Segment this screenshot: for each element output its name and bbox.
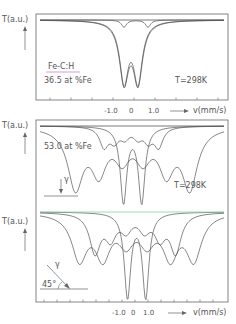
mossbauer-figure: T(a.u.) T(a.u.) T(a.u.) Fe-C:H 36.5 at %… bbox=[0, 0, 236, 324]
sample-label: Fe-C:H bbox=[48, 62, 74, 71]
top-ylabel: T(a.u.) bbox=[1, 15, 28, 24]
top-x-arrowhead bbox=[184, 109, 189, 113]
bottom-series-1 bbox=[40, 213, 224, 256]
angle-arc bbox=[58, 282, 62, 289]
top-xlabel: v(mm/s) bbox=[193, 106, 226, 115]
top-xtick-0: 0 bbox=[129, 107, 133, 115]
composition-label-1: 36.5 at %Fe bbox=[44, 76, 92, 85]
bottom-y-arrowhead bbox=[23, 228, 27, 233]
top-xtick-m1: -1.0 bbox=[104, 107, 118, 115]
composition-label-2: 53.0 at %Fe bbox=[44, 142, 92, 151]
temperature-label-2: T=298K bbox=[173, 181, 207, 190]
gamma-label-1: γ bbox=[64, 175, 69, 184]
top-panel-frame bbox=[36, 14, 228, 100]
angle-label: 45° bbox=[42, 280, 56, 289]
middle-y-arrowhead bbox=[23, 132, 27, 137]
temperature-label-1: T=298K bbox=[174, 76, 208, 85]
top-y-arrowhead bbox=[23, 26, 27, 31]
gamma-normal-arrowhead bbox=[59, 189, 63, 194]
bottom-ylabel: T(a.u.) bbox=[1, 217, 28, 226]
bottom-xtick-0: 0 bbox=[131, 309, 135, 317]
top-xtick-p1: 1.0 bbox=[148, 107, 159, 115]
bottom-xtick-p1: 1.0 bbox=[143, 309, 154, 317]
bottom-xtick-m1: -1.0 bbox=[112, 309, 126, 317]
bottom-x-arrowhead bbox=[182, 311, 187, 315]
middle-ylabel: T(a.u.) bbox=[1, 121, 28, 130]
gamma-label-2: γ bbox=[55, 260, 60, 269]
bottom-xlabel: v(mm/s) bbox=[193, 308, 226, 317]
